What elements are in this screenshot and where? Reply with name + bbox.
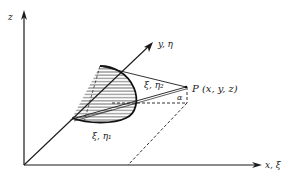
angle-alpha-label: α bbox=[177, 93, 183, 102]
lower-point-label: ξ, η₁ bbox=[92, 131, 112, 141]
point-p-label: P (x, y, z) bbox=[191, 83, 238, 94]
z-axis-label: z bbox=[7, 12, 13, 22]
coordinate-diagram: z x, ξ y, η P (x, y, z) ξ, η₂ ξ, η₁ α bbox=[0, 0, 291, 177]
x-axis bbox=[24, 162, 262, 168]
x-axis-label: x, ξ bbox=[265, 160, 282, 170]
y-axis-label: y, η bbox=[157, 39, 174, 49]
upper-point-label: ξ, η₂ bbox=[144, 80, 164, 90]
hatched-region bbox=[60, 60, 150, 130]
z-axis bbox=[21, 10, 27, 165]
